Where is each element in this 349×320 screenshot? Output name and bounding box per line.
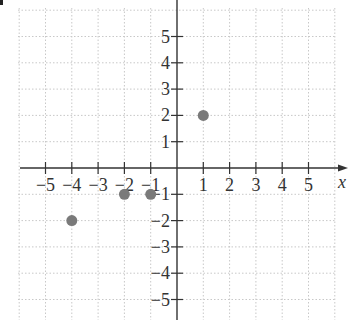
- x-axis-label: x: [337, 172, 346, 192]
- x-tick-label: 4: [278, 175, 287, 195]
- y-tick-label: 3: [161, 79, 170, 99]
- axes: [20, 0, 348, 320]
- x-tick-label: 2: [225, 175, 234, 195]
- x-tick-label: −4: [62, 175, 81, 195]
- x-tick-label: 3: [251, 175, 260, 195]
- x-tick-label: 5: [304, 175, 313, 195]
- x-tick-label: 1: [199, 175, 208, 195]
- data-point: [66, 215, 77, 226]
- coordinate-plane: −5−4−3−2−112345 54321−1−2−3−4−5 x: [0, 0, 349, 320]
- x-tick-label: −3: [89, 175, 108, 195]
- x-axis-ticks: −5−4−3−2−112345: [36, 162, 313, 195]
- y-tick-label: 1: [161, 132, 170, 152]
- x-axis-arrow-icon: [338, 165, 348, 172]
- y-tick-label: −4: [151, 263, 170, 283]
- y-tick-label: −3: [151, 237, 170, 257]
- data-point: [119, 189, 130, 200]
- y-tick-label: 5: [161, 27, 170, 47]
- y-tick-label: 4: [161, 53, 170, 73]
- y-tick-label: −2: [151, 211, 170, 231]
- data-point: [145, 189, 156, 200]
- data-point: [198, 110, 209, 121]
- y-tick-label: −5: [151, 290, 170, 310]
- y-tick-label: 2: [161, 105, 170, 125]
- x-tick-label: −5: [36, 175, 55, 195]
- corner-mark: [0, 0, 3, 5]
